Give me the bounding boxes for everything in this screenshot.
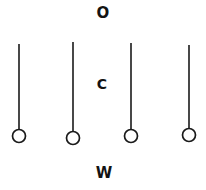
pendulum-1-bob xyxy=(13,130,26,143)
pendulum-4-bob xyxy=(183,129,196,142)
pendulum-2 xyxy=(67,42,80,145)
letter-label-top: O xyxy=(97,6,110,21)
letter-label-bottom: W xyxy=(96,166,113,181)
pendulum-3-bob xyxy=(125,130,138,143)
pendulum-2-bob xyxy=(67,132,80,145)
pendulum-4 xyxy=(183,45,196,142)
figure-canvas: O C W xyxy=(0,0,206,190)
pendulum-1 xyxy=(13,44,26,143)
letter-label-middle: C xyxy=(97,77,107,91)
pendulum-diagram xyxy=(0,0,206,190)
pendulum-3 xyxy=(125,43,138,143)
